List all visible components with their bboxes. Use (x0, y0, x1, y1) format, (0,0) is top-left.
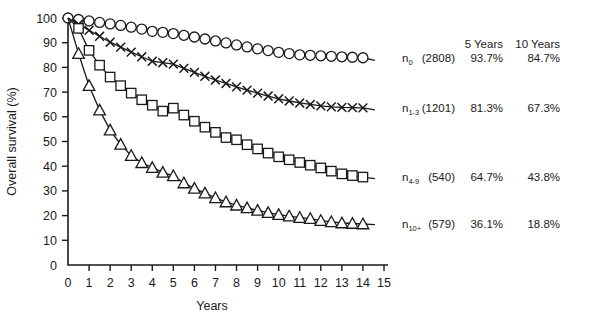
data-point-triangle (146, 162, 158, 173)
data-point-square (263, 148, 272, 157)
x-axis-tick-label: 1 (86, 276, 93, 290)
series-label-n4-9: n4-9 (402, 171, 419, 186)
data-point-square (253, 144, 262, 153)
series-label-subscript: 4-9 (408, 177, 419, 186)
data-point-triangle (115, 139, 127, 150)
x-axis-title: Years (196, 299, 228, 313)
data-point-circle (263, 46, 273, 56)
data-point-circle (137, 24, 147, 34)
data-point-square (295, 158, 304, 167)
data-point-circle (147, 26, 157, 36)
series-label-n1-3: n1-3 (402, 102, 419, 117)
data-point-square (148, 100, 157, 109)
data-point-triangle (210, 192, 222, 203)
data-point-circle (84, 16, 94, 26)
data-point-cross (264, 92, 273, 101)
table-cell-5y-n10+: 36.1% (470, 218, 503, 230)
data-point-circle (274, 47, 284, 57)
data-point-square (74, 24, 83, 33)
series-label-n0: n0 (402, 52, 413, 67)
data-point-square (337, 169, 346, 178)
data-point-circle (74, 14, 84, 24)
data-point-circle (116, 20, 126, 30)
data-point-cross (85, 26, 94, 35)
x-axis-tick-label: 11 (293, 276, 306, 290)
table-cell-5y-n0: 93.7% (470, 52, 503, 64)
data-point-cross (137, 52, 146, 61)
data-point-square (105, 72, 114, 81)
data-point-circle (158, 27, 168, 37)
data-point-triangle (168, 170, 180, 181)
data-point-circle (95, 17, 105, 27)
data-point-cross (106, 38, 115, 47)
table-cell-10y-n0: 84.7% (527, 52, 560, 64)
x-axis-tick-label: 4 (149, 276, 156, 290)
data-point-cross (201, 72, 210, 81)
data-point-circle (232, 40, 242, 50)
data-point-square (127, 88, 136, 97)
table-cell-n-n1-3: (1201) (422, 102, 455, 114)
x-axis-tick-label: 7 (212, 276, 219, 290)
series-line (68, 18, 375, 110)
data-point-triangle (178, 177, 190, 188)
series-label-subscript: 1-3 (408, 108, 419, 117)
series-label-n10+: n10+ (402, 218, 422, 233)
data-point-circle (253, 44, 263, 54)
series-n0 (63, 13, 375, 63)
y-axis-tick-label: 0 (50, 259, 57, 273)
table-cell-n-n10+: (579) (428, 218, 455, 230)
data-point-square (358, 172, 367, 181)
y-axis-tick-label: 30 (43, 184, 57, 198)
data-point-circle (179, 30, 189, 40)
x-axis-tick-label: 6 (191, 276, 198, 290)
data-point-square (316, 163, 325, 172)
data-point-square (95, 60, 104, 69)
data-point-circle (210, 36, 220, 46)
data-point-circle (284, 49, 294, 59)
data-point-cross (243, 86, 252, 95)
data-point-triangle (83, 80, 95, 91)
x-axis-tick-label: 10 (272, 276, 286, 290)
data-point-circle (305, 50, 315, 60)
table-cell-10y-n10+: 18.8% (527, 218, 560, 230)
table-cell-10y-n4-9: 43.8% (527, 171, 560, 183)
data-point-circle (200, 34, 210, 44)
x-axis-tick-label: 14 (356, 276, 370, 290)
y-axis-tick-label: 40 (43, 160, 57, 174)
table-header-5-years: 5 Years (465, 38, 504, 50)
data-point-square (348, 171, 357, 180)
series-label-subscript: 0 (408, 58, 412, 67)
table-cell-n-n0: (2808) (422, 52, 455, 64)
table-cell-n-n4-9: (540) (428, 171, 455, 183)
data-point-circle (358, 53, 368, 63)
data-point-triangle (199, 187, 211, 198)
y-axis-title: Overall survival (%) (5, 87, 19, 195)
data-point-circle (189, 32, 199, 42)
data-point-square (84, 46, 93, 55)
data-point-square (274, 152, 283, 161)
data-point-triangle (157, 167, 169, 178)
data-point-square (116, 81, 125, 90)
data-point-circle (242, 42, 252, 52)
y-axis-tick-label: 90 (43, 36, 57, 50)
data-point-square (221, 133, 230, 142)
data-point-cross (190, 68, 199, 77)
series-n1-3 (68, 18, 375, 112)
y-axis-tick-label: 20 (43, 209, 57, 223)
data-point-cross (253, 89, 262, 98)
data-point-square (242, 140, 251, 149)
data-point-square (211, 128, 220, 137)
x-axis-tick-label: 15 (377, 276, 391, 290)
data-point-circle (295, 50, 305, 60)
data-point-square (158, 106, 167, 115)
data-point-square (179, 110, 188, 119)
data-point-circle (105, 19, 115, 29)
data-point-cross (211, 76, 220, 85)
data-point-cross (127, 48, 136, 57)
y-axis-tick-label: 10 (43, 234, 57, 248)
table-cell-10y-n1-3: 67.3% (527, 102, 560, 114)
table-cell-5y-n1-3: 81.3% (470, 102, 503, 114)
data-point-square (285, 155, 294, 164)
series-label-subscript: 10+ (408, 224, 421, 233)
data-point-square (232, 135, 241, 144)
